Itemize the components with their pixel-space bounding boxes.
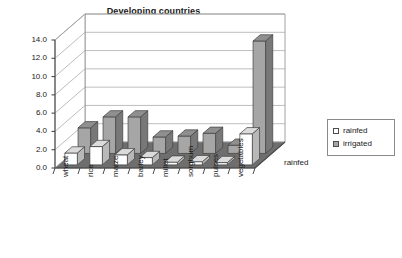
plot-area: 14.012.010.08.06.04.02.00.0 wheatricemai… [0, 0, 300, 200]
bar-irrigated-maize [128, 117, 141, 154]
y-tick-10.0: 10.0 [19, 73, 47, 81]
legend-item-irrigated[interactable]: irrigated [333, 137, 389, 150]
x-label-pulses: pulses [212, 154, 220, 177]
legend-label-irrigated: irrigated [343, 140, 372, 148]
bar-irrigated-sorghum [203, 133, 216, 153]
x-label-barley: barley [137, 155, 145, 177]
legend-label-rainfed: rainfed [343, 127, 367, 135]
bar-irrigated-rice-side [116, 111, 123, 154]
y-tick-14.0: 14.0 [19, 36, 47, 44]
depth-axis-label: rainfed [284, 158, 308, 167]
x-label-maize: maize [112, 156, 120, 177]
x-label-sorghum: sorghum [187, 146, 195, 177]
y-tick-6.0: 6.0 [19, 109, 47, 117]
x-label-rice: rice [87, 164, 95, 177]
y-tick-8.0: 8.0 [19, 91, 47, 99]
chart-legend: rainfed irrigated [327, 119, 395, 156]
legend-swatch-rainfed [333, 128, 339, 134]
x-label-vegetables: vegetables [237, 138, 245, 177]
y-tick-12.0: 12.0 [19, 54, 47, 62]
x-label-wheat: wheat [62, 156, 70, 177]
plot-svg [0, 0, 300, 205]
y-tick-0.0: 0.0 [19, 164, 47, 172]
bar-irrigated-vegetables-side [266, 35, 273, 154]
x-label-millet: millet [162, 158, 170, 177]
bar-irrigated-barley [153, 137, 166, 153]
y-tick-4.0: 4.0 [19, 127, 47, 135]
legend-swatch-irrigated [333, 141, 339, 147]
bar-rainfed-rice [90, 147, 103, 165]
legend-item-rainfed[interactable]: rainfed [333, 124, 389, 137]
chart-root: Developing countries 14.012.010.08.06.04… [0, 0, 402, 258]
bar-irrigated-maize-side [141, 111, 148, 154]
y-tick-2.0: 2.0 [19, 146, 47, 154]
